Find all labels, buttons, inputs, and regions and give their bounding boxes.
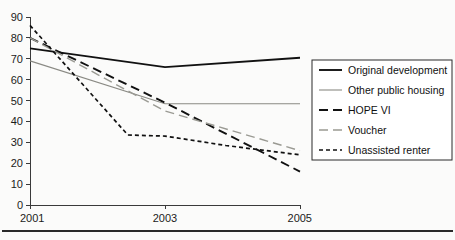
chart-figure: 0102030405060708090 200120032005 Origina… bbox=[0, 0, 455, 240]
legend-label: HOPE VI bbox=[348, 104, 391, 116]
legend-label: Other public housing bbox=[348, 84, 444, 96]
y-tick-label: 50 bbox=[11, 95, 23, 107]
x-tick-label: 2003 bbox=[153, 212, 177, 224]
y-tick-label: 90 bbox=[11, 11, 23, 23]
y-tick-label: 20 bbox=[11, 157, 23, 169]
y-tick-label: 60 bbox=[11, 74, 23, 86]
y-tick-label: 0 bbox=[17, 199, 23, 211]
legend-label: Voucher bbox=[348, 124, 387, 136]
y-tick-label: 40 bbox=[11, 115, 23, 127]
legend-label: Original development bbox=[348, 64, 447, 76]
x-tick-label: 2005 bbox=[288, 212, 312, 224]
x-tick-label: 2001 bbox=[20, 212, 44, 224]
y-tick-label: 80 bbox=[11, 32, 23, 44]
line-chart: 0102030405060708090 200120032005 Origina… bbox=[0, 0, 455, 240]
y-tick-label: 70 bbox=[11, 53, 23, 65]
legend-label: Unassisted renter bbox=[348, 144, 431, 156]
chart-legend: Original developmentOther public housing… bbox=[312, 60, 452, 160]
y-tick-label: 30 bbox=[11, 136, 23, 148]
y-tick-label: 10 bbox=[11, 178, 23, 190]
